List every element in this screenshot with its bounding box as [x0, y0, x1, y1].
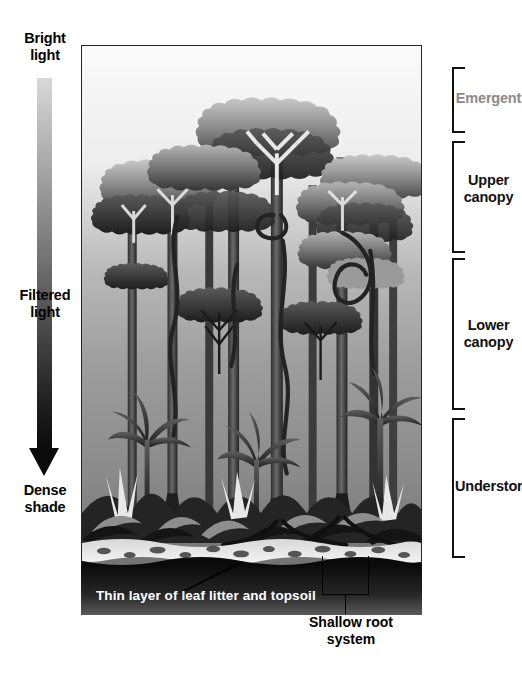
label-bright-light: Bright light [0, 30, 90, 63]
label-upper-canopy: Upper canopy [455, 172, 522, 205]
shallow-root-callout-box [322, 556, 369, 595]
light-arrow-head-icon [29, 448, 59, 476]
label-dense-shade: Dense shade [0, 482, 90, 515]
light-gradient-bar [37, 78, 52, 450]
rainforest-scene [82, 46, 421, 579]
shallow-root-leader-line [345, 595, 347, 614]
caption-shallow-root-system: Shallow root system [288, 614, 414, 647]
label-understory: Understory [455, 478, 522, 495]
label-emergent: Emergent [455, 90, 522, 107]
diagram-canvas: Bright light Filtered light Dense shade [0, 0, 522, 678]
label-filtered-light: Filtered light [0, 287, 90, 320]
label-lower-canopy: Lower canopy [455, 317, 522, 350]
caption-leaf-litter-topsoil: Thin layer of leaf litter and topsoil [96, 588, 316, 603]
rainforest-illustration-frame [81, 45, 422, 581]
